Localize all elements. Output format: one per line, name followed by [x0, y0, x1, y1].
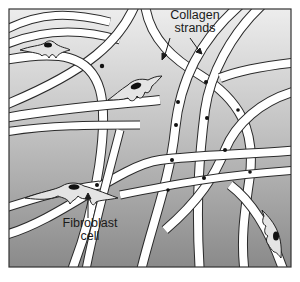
- nucleus: [273, 232, 279, 241]
- collagen-strands-label: Collagen strands: [160, 9, 230, 35]
- fibroblast-cell-label: Fibroblast cell: [52, 217, 128, 243]
- collagen-label-line2: strands: [160, 22, 230, 35]
- nucleus: [44, 43, 52, 48]
- connective-tissue-diagram: [0, 0, 300, 282]
- nucleus: [69, 184, 80, 190]
- fibroblast-label-line2: cell: [52, 230, 128, 243]
